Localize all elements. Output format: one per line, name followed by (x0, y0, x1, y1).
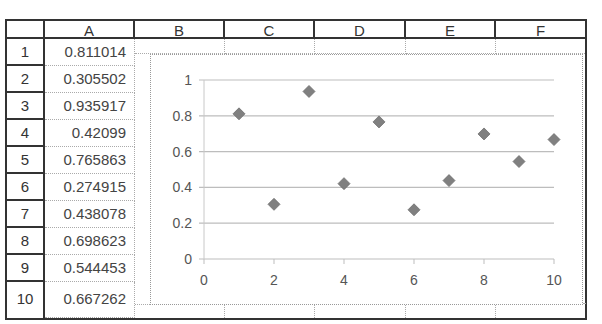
x-tick-label: 4 (340, 272, 348, 288)
column-header-a[interactable]: A (45, 19, 135, 39)
cell-c1[interactable] (225, 39, 315, 54)
y-tick-label: 0.2 (173, 215, 193, 231)
column-header-e[interactable]: E (406, 19, 496, 39)
row-header-7[interactable]: 7 (5, 201, 45, 228)
cell-a4[interactable]: 0.42099 (45, 120, 135, 147)
cell-e10[interactable] (406, 305, 496, 318)
select-all-corner[interactable] (5, 19, 45, 39)
row-header-5[interactable]: 5 (5, 147, 45, 174)
y-tick-label: 0 (184, 251, 192, 267)
data-point-diamond[interactable] (268, 198, 280, 210)
data-point-diamond[interactable] (443, 175, 455, 187)
column-header-c[interactable]: C (225, 19, 315, 39)
data-point-diamond[interactable] (548, 134, 560, 146)
y-tick-label: 0.6 (173, 144, 193, 160)
column-header-f[interactable]: F (496, 19, 587, 39)
cell-a10[interactable]: 0.667262 (45, 282, 135, 318)
y-tick-label: 0.8 (173, 108, 193, 124)
row-header-3[interactable]: 3 (5, 93, 45, 120)
column-header-b[interactable]: B (135, 19, 225, 39)
cell-a1[interactable]: 0.811014 (45, 39, 135, 66)
scatter-chart[interactable]: 00.20.40.60.810246810 (150, 54, 583, 305)
x-tick-label: 0 (200, 272, 208, 288)
y-tick-label: 0.4 (173, 179, 193, 195)
cell-b10[interactable] (135, 305, 225, 318)
row-header-9[interactable]: 9 (5, 255, 45, 282)
cell-b1[interactable] (135, 39, 225, 54)
data-point-diamond[interactable] (373, 116, 385, 128)
cell-a8[interactable]: 0.698623 (45, 228, 135, 255)
data-point-diamond[interactable] (513, 156, 525, 168)
cell-c10[interactable] (225, 305, 315, 318)
cell-a2[interactable]: 0.305502 (45, 66, 135, 93)
row-header-10[interactable]: 10 (5, 282, 45, 320)
cell-a7[interactable]: 0.438078 (45, 201, 135, 228)
cell-b-strip (135, 54, 150, 305)
data-point-diamond[interactable] (303, 85, 315, 97)
chart-plot: 00.20.40.60.810246810 (151, 55, 584, 306)
column-header-d[interactable]: D (315, 19, 406, 39)
row-header-1[interactable]: 1 (5, 39, 45, 66)
x-tick-label: 2 (270, 272, 278, 288)
x-tick-label: 6 (410, 272, 418, 288)
data-point-diamond[interactable] (233, 108, 245, 120)
cell-f10[interactable] (496, 305, 585, 318)
cell-f1[interactable] (496, 39, 585, 54)
row-header-4[interactable]: 4 (5, 120, 45, 147)
x-tick-label: 10 (546, 272, 562, 288)
cell-e1[interactable] (406, 39, 496, 54)
cell-d1[interactable] (315, 39, 406, 54)
x-tick-label: 8 (480, 272, 488, 288)
row-header-6[interactable]: 6 (5, 174, 45, 201)
cell-a9[interactable]: 0.544453 (45, 255, 135, 282)
cell-a5[interactable]: 0.765863 (45, 147, 135, 174)
cell-d10[interactable] (315, 305, 406, 318)
cell-a6[interactable]: 0.274915 (45, 174, 135, 201)
row-header-2[interactable]: 2 (5, 66, 45, 93)
data-point-diamond[interactable] (478, 128, 490, 140)
y-tick-label: 1 (184, 72, 192, 88)
data-point-diamond[interactable] (408, 204, 420, 216)
row-header-8[interactable]: 8 (5, 228, 45, 255)
cell-a3[interactable]: 0.935917 (45, 93, 135, 120)
